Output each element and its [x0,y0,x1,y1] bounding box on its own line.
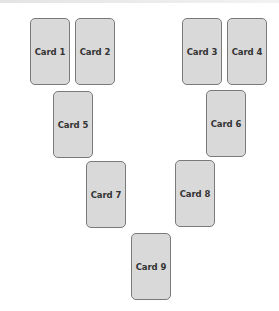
card-1[interactable]: Card 1 [30,18,70,85]
card-3[interactable]: Card 3 [182,18,222,85]
card-label: Card 6 [211,119,242,129]
card-4[interactable]: Card 4 [227,18,267,85]
card-label: Card 8 [180,189,211,199]
card-2[interactable]: Card 2 [75,18,115,85]
card-5[interactable]: Card 5 [53,91,93,158]
top-edge-bar [0,0,279,3]
card-9[interactable]: Card 9 [131,233,171,300]
card-8[interactable]: Card 8 [175,160,215,227]
card-label: Card 1 [35,47,66,57]
card-label: Card 3 [187,47,218,57]
card-label: Card 4 [232,47,263,57]
card-label: Card 7 [91,190,122,200]
card-7[interactable]: Card 7 [86,161,126,228]
card-label: Card 2 [80,47,111,57]
card-label: Card 5 [58,120,89,130]
card-6[interactable]: Card 6 [206,90,246,157]
card-label: Card 9 [136,262,167,272]
